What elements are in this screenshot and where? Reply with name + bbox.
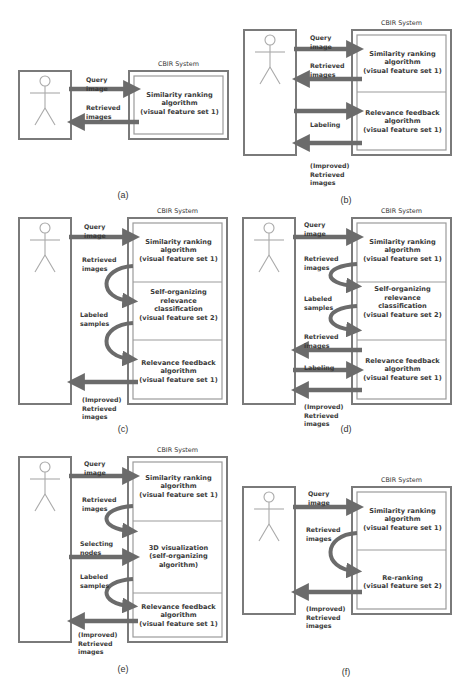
flow-label-text: (Improved) [306,605,346,613]
flow-label-text: Selecting [80,540,113,548]
flow-label-text: samples [80,582,109,590]
module-label: (visual feature set 1) [363,126,441,134]
panel-d: CBIR SystemSimilarity rankingalgorithm(v… [243,207,451,434]
flow-label-text: Query [310,34,331,42]
flow-label-text: (Improved) [304,403,344,411]
flow-label: (Improved)Retrievedimages [78,631,118,656]
flow-label: Labeledsamples [80,573,109,590]
module-label: (visual feature set 1) [139,255,217,263]
flow-label-text: image [84,469,106,477]
flow-label-text: Retrieved [304,255,339,262]
flow-label: (Improved)Retrievedimages [310,162,350,187]
internal-flow-arrow [330,264,357,286]
module-label: Relevance feedback [141,359,216,367]
internal-flow-arrow [330,533,357,571]
flow-label-text: samples [80,320,109,328]
module-3: Relevance feedbackalgorithm(visual featu… [139,359,217,384]
flow-label: Labeling [304,364,334,372]
flow-label-text: Retrieved [82,496,117,503]
module-label: classification [154,305,203,313]
flow-label-text: Labeled [304,295,332,302]
flow-label-text: samples [304,304,333,312]
module-label: (visual feature set 1) [140,108,218,116]
flow-label: (Improved)Retrievedimages [306,605,346,630]
flow-label-text: (Improved) [82,396,122,404]
module-label: 3D visualization [149,544,209,552]
flow-label-text: image [304,230,326,238]
flow-label-text: (Improved) [78,631,118,639]
module-label: (visual feature set 1) [363,67,441,75]
module-1: Similarity rankingalgorithm(visual featu… [140,91,218,116]
module-label: Similarity ranking [146,91,213,99]
module-label: Relevance feedback [141,603,216,611]
module-label: Similarity ranking [369,507,436,515]
module-1: Similarity rankingalgorithm(visual featu… [139,238,217,263]
flow-label: Queryimage [86,76,108,93]
flow-label-text: Query [84,460,105,468]
flow-label: Queryimage [84,460,106,477]
flow-label: Retrievedimages [304,333,339,350]
module-label: Relevance feedback [365,357,440,365]
flow-label: (Improved)Retrievedimages [304,403,344,428]
module-label: algorithm) [159,561,198,569]
module-label: algorithm [160,367,196,375]
module-label: Similarity ranking [369,238,436,246]
flow-label-text: images [310,71,336,79]
flow-label-text: Retrieved [86,104,121,111]
panel-caption: (e) [118,664,129,674]
panel-caption: (f) [342,667,351,677]
module-label: (visual feature set 2) [363,582,441,590]
flow-label-text: image [310,43,332,51]
flow-label-text: images [310,179,336,187]
flow-label-text: images [306,535,332,543]
user-stick-figure-icon [254,223,284,272]
flow-label-text: images [304,342,330,350]
module-label: algorithm [384,515,420,523]
module-label: Self-organizing [150,288,207,296]
module-label: algorithm [160,246,196,254]
module-label: (visual feature set 1) [363,374,441,382]
flow-label-text: images [82,413,108,421]
flow-label-text: Retrieved [306,526,341,533]
module-label: algorithm [384,365,420,373]
module-label: Re-ranking [382,574,423,582]
flow-label-text: Retrieved [306,614,341,621]
module-label: (visual feature set 1) [363,255,441,263]
flow-label-text: image [84,232,106,240]
flow-label-text: Query [84,223,105,231]
flow-label: Queryimage [310,34,332,51]
flow-label: Labeledsamples [304,295,333,312]
flow-label-text: Labeled [80,311,108,318]
flow-label: Labeledsamples [80,311,109,328]
flow-label-text: Query [308,490,329,498]
cbir-system-title: CBIR System [381,207,422,215]
module-label: relevance [160,297,197,305]
flow-label-text: image [308,499,330,507]
flow-label: Retrievedimages [82,256,117,273]
module-label: Similarity ranking [145,474,212,482]
flow-label-text: images [86,113,112,121]
flow-label-text: nodes [80,549,102,556]
flow-label-text: Labeling [304,364,334,372]
module-label: classification [378,302,427,310]
user-stick-figure-icon [30,462,60,511]
flow-label-text: Labeling [310,121,340,129]
panel-caption: (b) [341,195,352,205]
user-stick-figure-icon [30,76,60,125]
flow-label-text: (Improved) [310,162,350,170]
module-label: (visual feature set 2) [363,311,441,319]
panel-a: CBIR SystemSimilarity rankingalgorithm(v… [19,60,228,200]
flow-label-text: Retrieved [304,412,339,419]
flow-label: (Improved)Retrievedimages [82,396,122,421]
module-2: Re-ranking(visual feature set 2) [363,574,441,591]
internal-flow-arrow [330,306,357,330]
flow-label-text: Retrieved [310,171,345,178]
panel-caption: (d) [341,424,352,434]
flow-label-text: images [82,505,108,513]
module-1: Similarity rankingalgorithm(visual featu… [363,50,441,75]
module-label: Relevance feedback [365,109,440,117]
flow-label-text: Retrieved [82,256,117,263]
cbir-system-title: CBIR System [381,476,422,484]
cbir-system-title: CBIR System [381,19,422,27]
module-3: Relevance feedbackalgorithm(visual featu… [139,603,217,628]
